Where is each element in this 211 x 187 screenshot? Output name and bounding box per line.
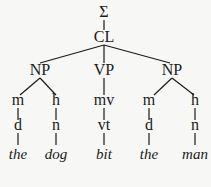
phrase-node-vp: VP [94, 61, 115, 78]
class-node-n1: n [52, 116, 60, 133]
class-node-n2: n [191, 116, 199, 133]
class-node-vt: vt [98, 116, 111, 133]
class-node-d1: d [14, 116, 22, 133]
edge-np2-m [154, 78, 172, 95]
function-node-m2: m [143, 91, 156, 108]
clause-node: CL [94, 28, 114, 45]
function-node-mv: mv [94, 91, 114, 108]
function-node-h1: h [52, 91, 60, 108]
word-man: man [182, 146, 208, 162]
phrase-node-np2: NP [162, 61, 183, 78]
syntax-tree-diagram: Σ CL NP VP NP m h mv m h d n vt d n the … [0, 0, 211, 187]
function-node-h2: h [191, 91, 199, 108]
word-bit: bit [96, 146, 113, 162]
word-dog: dog [45, 146, 68, 162]
class-node-d2: d [145, 116, 153, 133]
phrase-node-np1: NP [30, 61, 51, 78]
word-the-2: the [140, 146, 159, 162]
word-the-1: the [9, 146, 28, 162]
function-node-m1: m [12, 91, 25, 108]
root-node: Σ [99, 3, 108, 20]
